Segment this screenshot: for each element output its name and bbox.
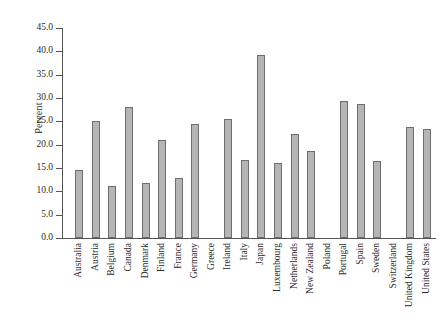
y-axis-tick-label: 25.0 — [1, 116, 53, 126]
bar-slot — [402, 28, 419, 238]
bar[interactable] — [175, 178, 183, 238]
bar[interactable] — [357, 104, 365, 238]
bar-slot — [154, 28, 171, 238]
y-axis-tick — [56, 238, 62, 239]
bar-slot — [336, 28, 353, 238]
x-axis-label-slot: Finland — [154, 241, 171, 329]
x-axis-tick-label: United States — [422, 243, 432, 294]
bar[interactable] — [373, 161, 381, 238]
x-axis-label-slot: United Kingdom — [402, 241, 419, 329]
x-axis-tick-label: Luxembourg — [273, 243, 283, 292]
bar[interactable] — [75, 170, 83, 238]
bar-slot — [253, 28, 270, 238]
bar-slot — [187, 28, 204, 238]
x-axis-tick-label: Ireland — [224, 243, 234, 270]
bar-slot — [270, 28, 287, 238]
bar[interactable] — [291, 134, 299, 238]
x-axis-tick-label: France — [174, 243, 184, 269]
x-axis-label-slot: France — [170, 241, 187, 329]
bar-slot — [419, 28, 436, 238]
x-axis-label-slot: Netherlands — [286, 241, 303, 329]
x-axis-line — [62, 238, 436, 239]
bar[interactable] — [257, 55, 265, 238]
x-axis-label-slot: Switzerland — [386, 241, 403, 329]
y-axis-tick-label-wrap: 45.0 — [0, 28, 53, 29]
x-axis-tick-label: Spain — [356, 243, 366, 265]
y-axis-tick-label: 45.0 — [1, 23, 53, 33]
y-axis-tick-label-wrap: 40.0 — [0, 51, 53, 52]
x-axis-tick-label: Netherlands — [290, 243, 300, 289]
x-axis-tick-label: Switzerland — [389, 243, 399, 288]
x-axis-tick-label: Italy — [240, 243, 250, 260]
bar-slot — [220, 28, 237, 238]
bar[interactable] — [423, 129, 431, 238]
bar[interactable] — [224, 119, 232, 238]
x-axis-tick-label: Portugal — [339, 243, 349, 275]
x-axis-tick-label: Sweden — [372, 243, 382, 273]
bar[interactable] — [125, 107, 133, 238]
y-axis-tick-label-wrap: 30.0 — [0, 98, 53, 99]
bar-slot — [237, 28, 254, 238]
bar[interactable] — [158, 140, 166, 238]
bar[interactable] — [406, 127, 414, 238]
bar-slot — [121, 28, 138, 238]
bar-slot — [286, 28, 303, 238]
bar-slot — [352, 28, 369, 238]
x-axis-labels: AustraliaAustriaBelgiumCanadaDenmarkFinl… — [62, 241, 436, 329]
x-axis-label-slot: New Zealand — [303, 241, 320, 329]
y-axis-tick-label: 40.0 — [1, 46, 53, 56]
bar[interactable] — [108, 186, 116, 238]
bar[interactable] — [274, 163, 282, 238]
x-axis-label-slot: Denmark — [137, 241, 154, 329]
x-axis-tick-label: Japan — [257, 243, 267, 265]
y-axis-tick-label: 30.0 — [1, 93, 53, 103]
bars-layer — [62, 28, 436, 238]
x-axis-label-slot: Australia — [71, 241, 88, 329]
x-axis-label-slot: Greece — [203, 241, 220, 329]
x-axis-tick-label: Germany — [190, 243, 200, 278]
x-axis-label-slot: Poland — [319, 241, 336, 329]
x-axis-tick-label: Finland — [157, 243, 167, 272]
y-axis-tick-label-wrap: 20.0 — [0, 145, 53, 146]
bar-slot — [303, 28, 320, 238]
bar[interactable] — [241, 160, 249, 238]
bar-slot — [203, 28, 220, 238]
x-axis-tick-label: Belgium — [108, 243, 118, 276]
x-axis-label-slot: United States — [419, 241, 436, 329]
x-axis-tick-label: Denmark — [141, 243, 151, 278]
y-axis-tick-label: 15.0 — [1, 163, 53, 173]
y-axis-tick-label: 5.0 — [1, 210, 53, 220]
x-axis-tick-label: New Zealand — [306, 243, 316, 294]
x-axis-label-slot: Austria — [88, 241, 105, 329]
bar-slot — [170, 28, 187, 238]
y-axis-tick-label-wrap: 25.0 — [0, 121, 53, 122]
y-axis-tick-label-wrap: 0.0 — [0, 238, 53, 239]
bar-slot — [104, 28, 121, 238]
x-axis-label-slot: Germany — [187, 241, 204, 329]
y-axis-tick-label: 0.0 — [1, 233, 53, 243]
y-axis-tick-label-wrap: 15.0 — [0, 168, 53, 169]
bar-slot — [369, 28, 386, 238]
x-axis-label-slot: Canada — [121, 241, 138, 329]
bar-slot — [137, 28, 154, 238]
x-axis-label-slot: Japan — [253, 241, 270, 329]
bar-chart: Percent 0.05.010.015.020.025.030.035.040… — [0, 0, 440, 329]
x-axis-tick-label: Australia — [75, 243, 85, 278]
y-axis-tick-label: 20.0 — [1, 140, 53, 150]
x-axis-tick-label: Canada — [124, 243, 134, 272]
y-axis-tick-label-wrap: 10.0 — [0, 191, 53, 192]
x-axis-label-slot: Portugal — [336, 241, 353, 329]
bar-slot — [319, 28, 336, 238]
x-axis-tick-label: Greece — [207, 243, 217, 270]
y-axis-tick-label-wrap: 5.0 — [0, 215, 53, 216]
x-axis-label-slot: Italy — [237, 241, 254, 329]
x-axis-tick-label: Austria — [91, 243, 101, 271]
y-axis-tick-label: 35.0 — [1, 70, 53, 80]
bar[interactable] — [340, 101, 348, 238]
bar[interactable] — [92, 121, 100, 238]
y-axis-tick-label: 10.0 — [1, 186, 53, 196]
x-axis-label-slot: Belgium — [104, 241, 121, 329]
bar[interactable] — [142, 183, 150, 238]
bar[interactable] — [307, 151, 315, 238]
bar[interactable] — [191, 124, 199, 238]
